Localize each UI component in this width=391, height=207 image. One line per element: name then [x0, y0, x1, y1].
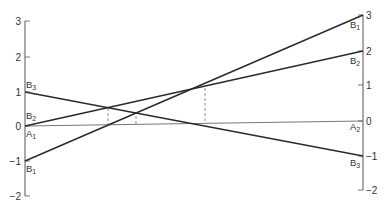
left-tick-1: 1: [15, 87, 21, 98]
label-a1-left: A1: [26, 128, 36, 140]
left-tick-neg1: −1: [10, 156, 22, 167]
left-tick-0: 0: [15, 121, 21, 132]
left-tick-2: 2: [15, 52, 21, 63]
right-tick-1: 1: [366, 80, 372, 91]
line-intersection-diagram: 3 2 1 0 −1 −2 3 2 1 0 −1 −2 B3 B2 A1 B1 …: [0, 0, 391, 207]
left-tick-3: 3: [15, 16, 21, 27]
right-tick-neg1: −1: [366, 151, 378, 162]
right-axis: 3 2 1 0 −1 −2: [358, 10, 378, 196]
label-a2-right: A2: [350, 121, 360, 133]
label-b1-left: B1: [26, 163, 36, 175]
label-b2-right: B2: [350, 55, 360, 67]
label-b3-right: B3: [350, 157, 360, 169]
right-tick-3: 3: [366, 10, 372, 21]
right-tick-0: 0: [366, 116, 372, 127]
line-b3: [25, 92, 363, 156]
line-b2: [25, 51, 363, 126]
label-b2-left: B2: [26, 110, 36, 122]
label-b3-left: B3: [26, 79, 36, 91]
right-tick-2: 2: [366, 46, 372, 57]
label-b1-right: B1: [350, 19, 360, 31]
left-axis: 3 2 1 0 −1 −2: [10, 16, 30, 202]
right-tick-neg2: −2: [366, 185, 378, 196]
left-tick-neg2: −2: [10, 191, 22, 202]
